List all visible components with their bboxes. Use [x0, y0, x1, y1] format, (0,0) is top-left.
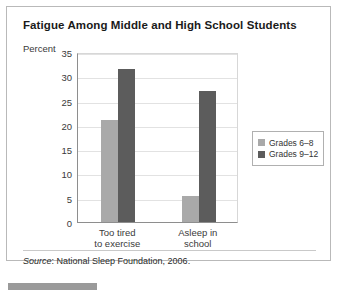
legend-label-grades-9-12: Grades 9–12	[269, 149, 318, 159]
y-tick-25: 25	[61, 96, 72, 107]
footer-gray-bar	[8, 283, 97, 290]
legend-swatch-light	[258, 139, 265, 146]
chart-title: Fatigue Among Middle and High School Stu…	[23, 19, 297, 31]
legend-swatch-dark	[258, 151, 265, 158]
legend-label-grades-6-8: Grades 6–8	[269, 138, 313, 148]
y-tick-20: 20	[61, 120, 72, 131]
y-tick-15: 15	[61, 145, 72, 156]
gridline	[78, 54, 237, 55]
x-category-label-0: Too tiredto exercise	[72, 227, 162, 249]
plot-area	[77, 53, 238, 223]
x-category-line: Asleep in	[153, 227, 243, 238]
legend-item-grades-6-8: Grades 6–8	[258, 138, 318, 148]
bar-grades-9-12-0	[118, 69, 135, 222]
chart-legend: Grades 6–8 Grades 9–12	[252, 131, 324, 166]
x-category-label-1: Asleep inschool	[153, 227, 243, 249]
bar-grades-6-8-1	[182, 196, 199, 222]
source-divider	[23, 250, 316, 251]
y-tick-0: 0	[67, 218, 72, 229]
source-text: : National Sleep Foundation, 2006.	[52, 256, 191, 266]
source-prefix: Source	[23, 256, 52, 266]
x-category-line: to exercise	[72, 238, 162, 249]
source-note: Source: National Sleep Foundation, 2006.	[23, 256, 190, 266]
y-tick-10: 10	[61, 169, 72, 180]
y-tick-35: 35	[61, 48, 72, 59]
y-tick-30: 30	[61, 72, 72, 83]
y-tick-5: 5	[67, 193, 72, 204]
bar-grades-9-12-1	[199, 91, 216, 222]
x-category-line: Too tired	[72, 227, 162, 238]
legend-item-grades-9-12: Grades 9–12	[258, 149, 318, 159]
gridline	[78, 78, 237, 79]
y-axis-tick-labels: 05101520253035	[47, 53, 72, 223]
chart-figure: Fatigue Among Middle and High School Stu…	[6, 6, 331, 261]
x-category-line: school	[153, 238, 243, 249]
bar-grades-6-8-0	[101, 120, 118, 222]
